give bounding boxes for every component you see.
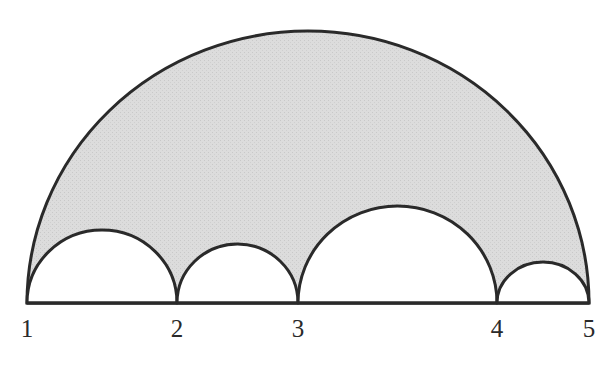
point-labels: 12345 [21,315,596,342]
point-label-4: 4 [491,315,504,342]
point-label-2: 2 [171,315,184,342]
point-label-1: 1 [21,315,34,342]
point-label-5: 5 [583,315,596,342]
semicircle-diagram: 12345 [0,0,615,371]
point-label-3: 3 [292,315,305,342]
shapes-group [27,31,589,303]
